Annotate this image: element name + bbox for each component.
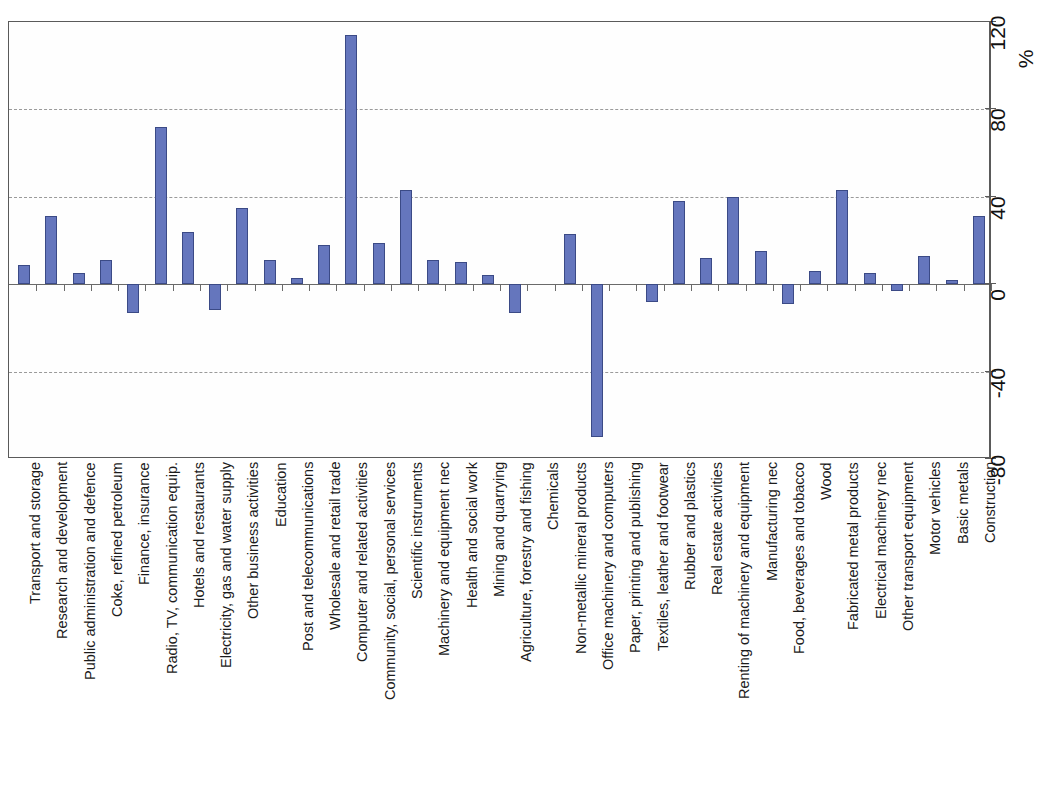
x-axis-tick — [173, 284, 174, 291]
category-label-text: Food, beverages and tobacco — [792, 462, 806, 654]
x-axis-tick — [855, 284, 856, 291]
category-label-text: Basic metals — [956, 462, 970, 544]
category-label: Basic metals — [956, 462, 970, 544]
category-label-text: Other transport equipment — [901, 462, 915, 631]
bar — [155, 127, 167, 284]
y-axis-tick-label: 80 — [986, 109, 1010, 132]
category-label-text: Chemicals — [546, 462, 560, 530]
x-axis-tick — [418, 284, 419, 291]
x-axis-tick — [691, 284, 692, 291]
bar — [836, 190, 848, 284]
bar — [946, 280, 958, 284]
category-label: Machinery and equipment nec — [437, 462, 451, 656]
category-label-text: Public administration and defence — [83, 462, 97, 680]
bar — [973, 216, 985, 284]
bar-chart-figure: 12080400-40-80 % Transport and storageRe… — [0, 0, 1056, 806]
x-axis-tick — [718, 284, 719, 291]
x-axis-tick — [336, 284, 337, 291]
bar — [700, 258, 712, 284]
category-label: Health and social work — [465, 462, 479, 608]
category-label: Post and telecommunications — [301, 462, 315, 651]
y-axis-tick-label: -40 — [986, 367, 1010, 397]
x-axis-tick — [746, 284, 747, 291]
category-label: Rubber and plastics — [683, 462, 697, 590]
category-label-text: Manufacturing nec — [765, 462, 779, 581]
category-label-text: Radio, TV, communication equip. — [165, 462, 179, 674]
bar — [373, 243, 385, 285]
category-label-text: Computer and related activities — [355, 462, 369, 662]
bar — [345, 35, 357, 284]
bar — [100, 260, 112, 284]
category-label: Mining and quarrying — [492, 462, 506, 597]
y-axis-tick-label: 0 — [986, 289, 1010, 301]
category-label: Electricity, gas and water supply — [219, 462, 233, 668]
x-axis-tick — [36, 284, 37, 291]
category-label-text: Mining and quarrying — [492, 462, 506, 597]
x-axis-tick — [555, 284, 556, 291]
category-label: Motor vehicles — [928, 462, 942, 555]
category-label: Other business activities — [246, 462, 260, 619]
category-label-text: Motor vehicles — [928, 462, 942, 555]
bar — [127, 284, 139, 312]
category-label: Scientific instruments — [410, 462, 424, 599]
bar — [18, 265, 30, 285]
y-axis-unit-label: % — [1014, 50, 1038, 69]
bar — [482, 275, 494, 284]
x-axis-tick — [800, 284, 801, 291]
x-axis-tick — [118, 284, 119, 291]
bar — [727, 197, 739, 284]
category-label: Wholesale and retail trade — [328, 462, 342, 630]
category-label: Food, beverages and tobacco — [792, 462, 806, 654]
y-axis-tick-label: 40 — [986, 196, 1010, 219]
bar — [918, 256, 930, 284]
category-label: Fabricated metal products — [846, 462, 860, 630]
x-axis-tick — [636, 284, 637, 291]
x-axis-tick — [227, 284, 228, 291]
category-label-text: Finance, insurance — [137, 462, 151, 585]
category-label-text: Electricity, gas and water supply — [219, 462, 233, 668]
x-axis-tick — [773, 284, 774, 291]
x-axis-tick — [282, 284, 283, 291]
bar — [182, 232, 194, 284]
category-label-text: Health and social work — [465, 462, 479, 608]
category-label-text: Fabricated metal products — [846, 462, 860, 630]
x-axis-tick — [364, 284, 365, 291]
category-label-text: Real estate activities — [710, 462, 724, 595]
bar — [45, 216, 57, 284]
category-label-text: Office machinery and computers — [601, 462, 615, 670]
x-axis-tick — [609, 284, 610, 291]
category-label-text: Hotels and restaurants — [192, 462, 206, 608]
x-axis-tick — [255, 284, 256, 291]
x-axis-tick — [91, 284, 92, 291]
bar — [564, 234, 576, 284]
bar — [673, 201, 685, 284]
category-label: Community, social, personal services — [383, 462, 397, 700]
y-axis: 12080400-40-80 % — [990, 21, 1056, 458]
x-axis-category-labels: Transport and storageResearch and develo… — [8, 462, 990, 802]
category-label: Agriculture, forestry and fishing — [519, 462, 533, 662]
category-label-text: Non-metallic mineral products — [574, 462, 588, 654]
category-label: Construction — [983, 462, 997, 543]
x-axis-tick — [664, 284, 665, 291]
category-label: Hotels and restaurants — [192, 462, 206, 608]
category-label: Chemicals — [546, 462, 560, 530]
plot-area — [8, 21, 990, 458]
x-axis-tick — [527, 284, 528, 291]
x-axis-tick — [827, 284, 828, 291]
category-label-text: Machinery and equipment nec — [437, 462, 451, 656]
x-axis-tick — [964, 284, 965, 291]
category-label: Electrical machinery nec — [874, 462, 888, 619]
category-label-text: Wholesale and retail trade — [328, 462, 342, 630]
bar — [591, 284, 603, 437]
bar — [509, 284, 521, 312]
category-label-text: Coke, refined petroleum — [110, 462, 124, 617]
bar — [864, 273, 876, 284]
category-label: Finance, insurance — [137, 462, 151, 585]
x-axis-tick — [64, 284, 65, 291]
x-axis-tick — [909, 284, 910, 291]
category-label: Non-metallic mineral products — [574, 462, 588, 654]
category-label-text: Wood — [819, 462, 833, 500]
category-label: Paper, printing and publishing — [628, 462, 642, 653]
category-label-text: Post and telecommunications — [301, 462, 315, 651]
x-axis-tick — [936, 284, 937, 291]
